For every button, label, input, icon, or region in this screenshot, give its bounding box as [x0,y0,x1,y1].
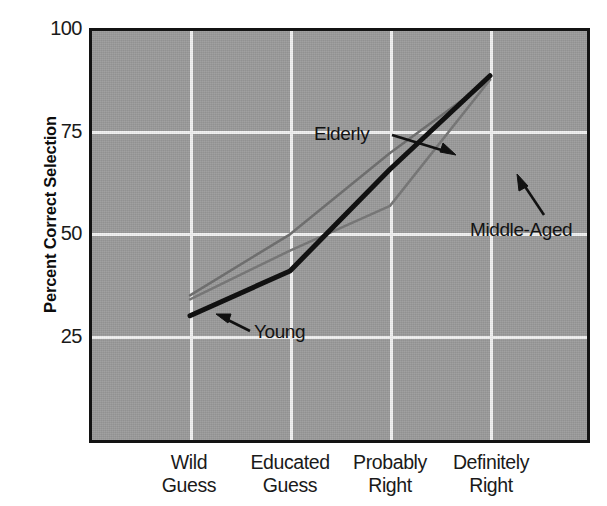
annotation-label-young: Young [254,321,305,343]
annotation-label-middle-aged: Middle-Aged [470,219,572,241]
x-tick-definitely-right-line2: Right [427,474,555,497]
y-tick-50: 50 [34,222,82,245]
series-line-elderly [190,80,490,296]
arrow-middle-aged [517,174,544,215]
y-tick-25: 25 [34,325,82,348]
x-tick-definitely-right: Definitely Right [427,451,555,497]
chart-figure: Percent Correct Selection 100 75 50 25 [0,0,607,506]
y-tick-100: 100 [34,17,82,40]
annotation-label-elderly: Elderly [314,123,369,145]
arrow-young [216,314,250,331]
x-axis-tick-labels: Wild Guess Educated Guess Probably Right… [89,451,590,503]
plot-area: Elderly Middle-Aged Young [89,28,590,443]
x-tick-definitely-right-line1: Definitely [427,451,555,474]
y-axis-tick-labels: 100 75 50 25 [30,0,82,506]
y-tick-75: 75 [34,120,82,143]
